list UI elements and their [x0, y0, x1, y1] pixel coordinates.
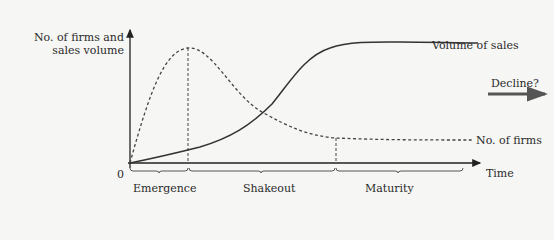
firms-series-label: No. of firms	[476, 134, 542, 147]
y-axis-label-line2: sales volume	[14, 44, 124, 57]
phase-label-maturity: Maturity	[365, 182, 414, 195]
sales-curve	[130, 42, 478, 163]
sales-series-label: Volume of sales	[432, 39, 519, 52]
origin-label: 0	[117, 168, 124, 181]
phase-braces	[130, 168, 463, 173]
y-axis-label: No. of firms and sales volume	[14, 31, 124, 57]
y-axis-label-line1: No. of firms and	[14, 31, 124, 44]
phase-label-emergence: Emergence	[133, 182, 197, 195]
phase-label-shakeout: Shakeout	[243, 182, 295, 195]
decline-annotation: Decline?	[491, 77, 539, 90]
x-axis-label: Time	[486, 167, 514, 180]
firms-curve	[130, 48, 472, 163]
